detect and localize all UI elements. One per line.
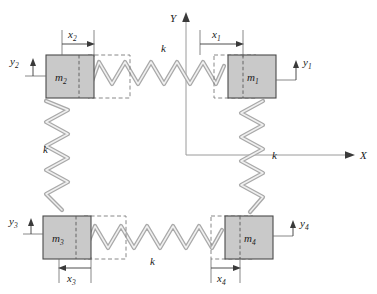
displacement-arrow-x3: x3 [58, 257, 91, 287]
y-axis-label: Y [170, 12, 178, 24]
spring-highlight [86, 226, 222, 248]
displacement-label-x4: x4 [216, 272, 226, 287]
displacement-arrow-y4: y4 [273, 217, 309, 236]
displacement-label-x3: x3 [66, 272, 76, 287]
mass-block-m1[interactable]: m1 [228, 55, 276, 98]
displacement-arrow-y2: y2 [9, 55, 46, 76]
x-axis-arrowhead [345, 151, 355, 159]
displacement-label-y1: y1 [302, 56, 312, 71]
displacement-label-y3: y3 [8, 215, 18, 230]
displacement-label-y2: y2 [9, 55, 19, 70]
spring-k-right [241, 101, 263, 212]
arrowhead-up [30, 58, 36, 66]
mass-block-m2[interactable]: m2 [46, 55, 94, 98]
arrowhead-up [290, 220, 296, 228]
spring-label-k-bottom: k [150, 255, 156, 267]
spring-mass-diagram: Y X m2 m1 m3 [0, 0, 377, 294]
arrowhead-up [293, 60, 299, 68]
displacement-arrow-y1: y1 [276, 56, 312, 80]
mass-body [43, 216, 91, 259]
displacement-label-y4: y4 [299, 217, 309, 232]
displacement-label-x2: x2 [67, 28, 77, 43]
spring-k-bottom [86, 226, 222, 248]
arrowhead-up [28, 218, 34, 226]
displacement-arrow-x2: x2 [62, 28, 95, 57]
spring-k-left [46, 101, 68, 210]
mass-body [46, 55, 94, 98]
spring-label-k-top: k [161, 42, 167, 54]
spring-k-top [91, 62, 224, 84]
displacement-arrow-x4: x4 [211, 257, 241, 287]
displacement-arrow-y3: y3 [8, 215, 43, 234]
displacement-label-x1: x1 [211, 28, 221, 43]
figure-canvas: Y X m2 m1 m3 [0, 0, 377, 294]
y-axis-arrowhead [182, 12, 190, 22]
mass-block-m4[interactable]: m4 [225, 216, 273, 259]
mass-block-m3[interactable]: m3 [43, 216, 91, 259]
displacement-arrow-x1: x1 [200, 28, 244, 57]
x-axis-label: X [359, 149, 368, 161]
